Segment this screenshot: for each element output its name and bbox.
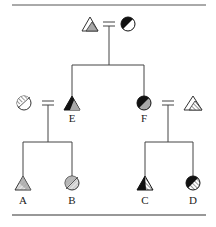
label-B: B	[62, 194, 82, 206]
triangle-hatched-corner-icon	[184, 96, 202, 110]
triangle-black-gray-icon	[64, 96, 80, 110]
circle-black-hatched-icon	[186, 176, 200, 190]
label-A: A	[13, 194, 33, 206]
circle-half-black-icon	[121, 17, 135, 31]
circle-black-gray-icon	[137, 96, 151, 110]
marriage-line-left	[42, 101, 54, 105]
circle-hatched-icon	[17, 96, 31, 110]
marriage-line-gen1	[103, 22, 115, 26]
triangle-gray-hatched-icon	[15, 176, 31, 190]
label-E: E	[62, 112, 82, 124]
label-C: C	[135, 194, 155, 206]
label-F: F	[134, 112, 154, 124]
circle-gray-hatched-icon	[65, 176, 79, 190]
pedigree-diagram	[0, 0, 216, 227]
triangle-black-hatched-icon	[137, 176, 153, 190]
label-D: D	[183, 194, 203, 206]
marriage-line-right	[162, 101, 174, 105]
triangle-partial-gray-icon	[82, 17, 98, 31]
